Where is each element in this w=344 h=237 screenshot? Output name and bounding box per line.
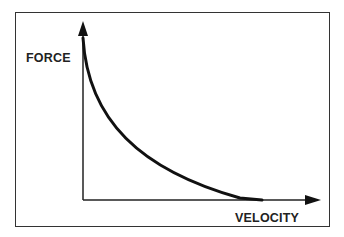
x-axis-arrow-icon (305, 195, 321, 205)
force-velocity-plot (0, 0, 344, 237)
y-axis-arrow-icon (78, 21, 88, 36)
force-velocity-curve (83, 38, 262, 200)
x-axis-label: VELOCITY (235, 211, 299, 225)
y-axis-label: FORCE (26, 51, 71, 65)
